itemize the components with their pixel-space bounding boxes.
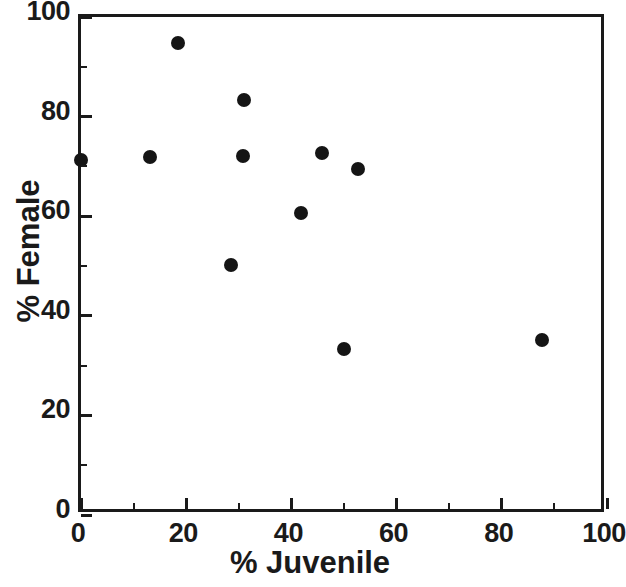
y-tick-minor	[81, 265, 87, 267]
x-tick-major	[80, 498, 83, 509]
data-point	[236, 149, 250, 163]
data-point	[337, 342, 351, 356]
data-point	[535, 333, 549, 347]
y-tick-minor	[81, 66, 87, 68]
y-tick-minor	[81, 165, 87, 167]
y-tick-minor	[81, 365, 87, 367]
y-tick-major	[81, 215, 92, 218]
x-tick-major	[185, 498, 188, 509]
x-tick-major	[606, 498, 609, 509]
data-point	[224, 258, 238, 272]
data-point	[294, 206, 308, 220]
x-tick-major	[290, 498, 293, 509]
x-tick-major	[395, 498, 398, 509]
y-tick-minor	[81, 464, 87, 466]
x-tick-minor	[553, 503, 555, 509]
data-point	[171, 36, 185, 50]
plot-frame	[78, 14, 604, 512]
y-tick-major	[81, 314, 92, 317]
x-tick-minor	[238, 503, 240, 509]
data-point	[143, 150, 157, 164]
y-tick-major	[81, 414, 92, 417]
data-points-layer	[81, 17, 601, 509]
y-tick-label: 0	[55, 494, 70, 525]
y-axis-title: % Female	[11, 101, 47, 401]
data-point	[315, 146, 329, 160]
y-tick-label: 100	[26, 0, 70, 27]
x-axis-title: % Juvenile	[0, 545, 620, 581]
data-point	[237, 93, 251, 107]
x-tick-minor	[448, 503, 450, 509]
x-tick-minor	[133, 503, 135, 509]
x-tick-major	[500, 498, 503, 509]
y-tick-major	[81, 16, 92, 19]
x-tick-minor	[343, 503, 345, 509]
y-tick-major	[81, 115, 92, 118]
y-tick-major	[81, 514, 92, 517]
data-point	[351, 162, 365, 176]
